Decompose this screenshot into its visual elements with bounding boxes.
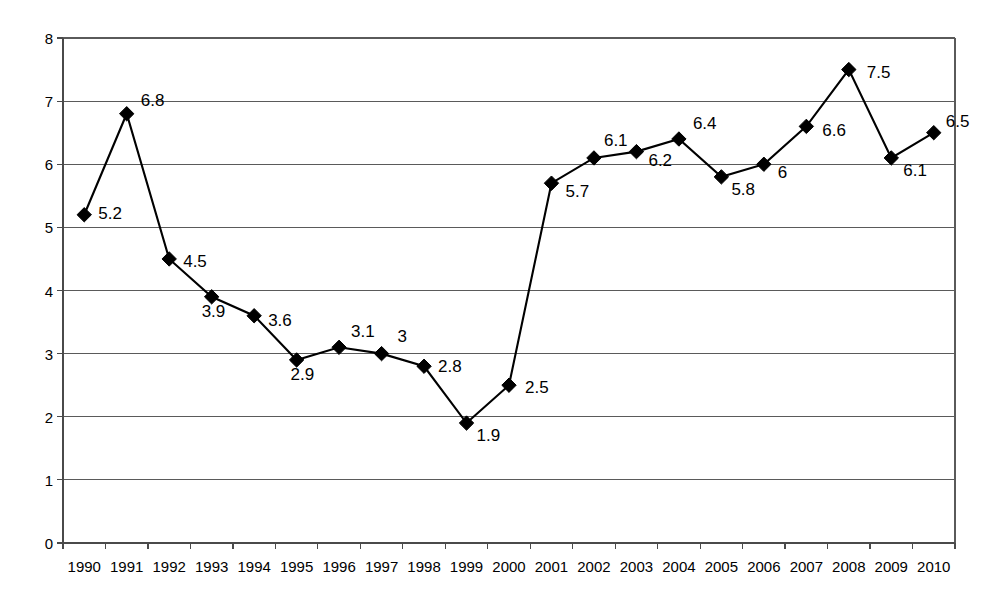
line-chart: 876543210 199019911992199319941995199619… — [0, 0, 999, 602]
y-axis-tick-label: 3 — [17, 347, 53, 362]
data-point-label: 5.7 — [565, 183, 589, 200]
data-point-label: 6.5 — [946, 113, 970, 130]
data-point-marker[interactable] — [77, 208, 91, 222]
y-axis-tick-label: 5 — [17, 220, 53, 235]
data-point-marker[interactable] — [374, 346, 388, 360]
data-point-label: 6.2 — [648, 152, 672, 169]
y-axis-tick-label: 2 — [17, 410, 53, 425]
data-point-marker[interactable] — [629, 144, 643, 158]
data-point-label: 6.8 — [141, 92, 165, 109]
y-axis-tick-label: 7 — [17, 94, 53, 109]
data-point-label: 2.9 — [291, 366, 315, 383]
data-point-label: 4.5 — [183, 253, 207, 270]
data-point-label: 1.9 — [477, 427, 501, 444]
data-point-label: 3.1 — [351, 323, 375, 340]
data-point-label: 3 — [398, 328, 407, 345]
y-axis-tick-label: 6 — [17, 157, 53, 172]
data-point-label: 5.2 — [98, 205, 122, 222]
y-axis-tick-label: 1 — [17, 473, 53, 488]
data-point-label: 6.4 — [693, 115, 717, 132]
data-point-marker[interactable] — [884, 151, 898, 165]
data-point-label: 6.1 — [903, 162, 927, 179]
data-point-label: 2.5 — [525, 379, 549, 396]
data-point-label: 5.8 — [731, 181, 755, 198]
y-axis-tick-label: 8 — [17, 31, 53, 46]
data-point-label: 6.1 — [604, 132, 628, 149]
y-axis-tick-label: 4 — [17, 284, 53, 299]
data-point-marker[interactable] — [544, 176, 558, 190]
data-point-label: 3.6 — [268, 312, 292, 329]
data-point-marker[interactable] — [587, 151, 601, 165]
data-point-marker[interactable] — [927, 125, 941, 139]
data-point-label: 3.9 — [202, 303, 226, 320]
data-point-label: 7.5 — [867, 64, 891, 81]
data-point-label: 2.8 — [438, 358, 462, 375]
y-axis-tick-label: 0 — [17, 536, 53, 551]
data-point-marker[interactable] — [332, 340, 346, 354]
x-axis-tick-label: 2010 — [908, 559, 960, 574]
data-point-label: 6.6 — [822, 122, 846, 139]
data-point-label: 6 — [778, 164, 787, 181]
data-point-marker[interactable] — [120, 107, 134, 121]
